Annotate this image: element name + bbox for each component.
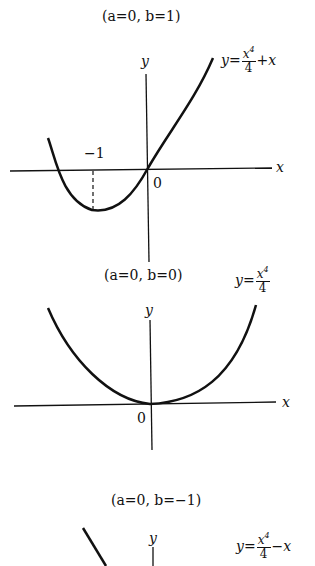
panel-1-title: (a=0, b=1)	[102, 9, 180, 23]
panel-1-x-label: x	[276, 160, 284, 174]
panel-2-equation: y = x44	[235, 266, 271, 295]
eq-tail: +x	[257, 53, 277, 67]
curve-2	[48, 305, 256, 404]
tick-label-minus-1: −1	[84, 146, 105, 160]
eq-lhs: y	[236, 539, 244, 553]
eq-den: 4	[260, 548, 268, 561]
panel-2-origin-label: 0	[137, 411, 146, 425]
eq-den: 4	[245, 62, 253, 75]
curve-1	[48, 58, 213, 210]
eq-lhs: y	[221, 53, 229, 67]
eq-den: 4	[259, 282, 267, 295]
eq-num-exp: 4	[249, 45, 254, 54]
eq-num-exp: 4	[263, 265, 268, 274]
panel-3-equation: y = x44 −x	[236, 532, 291, 561]
y-axis-2	[150, 320, 152, 450]
eq-num-exp: 4	[264, 531, 269, 540]
eq-tail: −x	[272, 539, 292, 553]
panel-3-title: (a=0, b=−1)	[111, 493, 201, 507]
eq-lhs: y	[235, 273, 243, 287]
panel-1-origin-label: 0	[153, 176, 162, 190]
curve-3	[83, 528, 106, 566]
panel-1-y-label: y	[141, 54, 149, 68]
panel-2-x-label: x	[282, 395, 290, 409]
panel-2-title: (a=0, b=0)	[104, 268, 182, 282]
panel-3-y-label: y	[149, 531, 157, 545]
panel-1-equation: y = x44 +x	[221, 46, 276, 75]
x-axis-1	[10, 168, 272, 171]
panel-2-y-label: y	[145, 303, 153, 317]
